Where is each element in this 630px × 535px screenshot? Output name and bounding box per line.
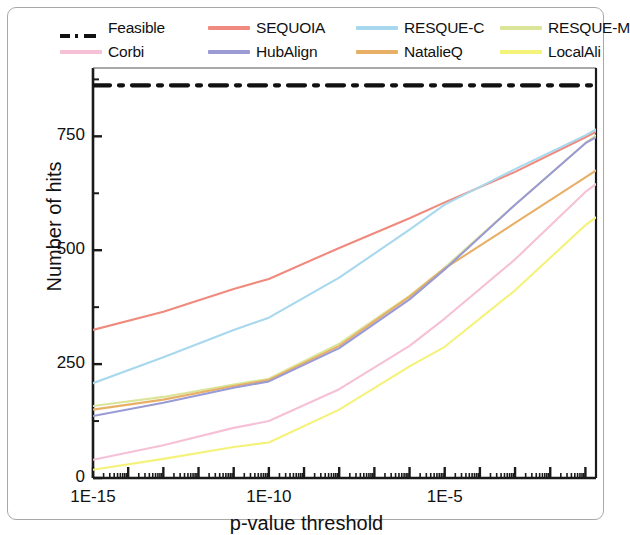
- y-ticks: [93, 79, 102, 478]
- series-line-resque-m: [93, 135, 596, 406]
- series-group: [93, 85, 596, 469]
- series-line-corbi: [93, 184, 596, 460]
- series-line-hubalign: [93, 137, 596, 416]
- series-line-sequoia: [93, 132, 596, 330]
- x-ticks: [93, 467, 596, 478]
- y-axis-label: Number of hits: [43, 127, 66, 327]
- x-axis-label: p-value threshold: [0, 512, 613, 535]
- series-line-natalieq: [93, 171, 596, 410]
